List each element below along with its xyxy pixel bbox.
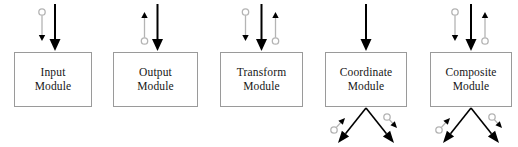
- output-module-label-line2: Module: [137, 80, 174, 94]
- coordinate-module-label-line2: Module: [348, 80, 385, 94]
- output-module-gray-up-arrow-circle-bottom: [141, 12, 147, 44]
- composite-module-box[interactable]: CompositeModule: [430, 52, 512, 107]
- module-group-transform-module: TransformModule: [220, 0, 303, 147]
- output-module-black-down-arrow: [152, 4, 163, 51]
- composite-module-label-line1: Composite: [445, 66, 496, 80]
- input-module-gray-down-arrow-circle-top: [39, 9, 45, 41]
- composite-module-black-down-right-arrow: [471, 108, 499, 143]
- transform-module-label-line2: Module: [243, 80, 280, 94]
- input-module-box[interactable]: InputModule: [14, 52, 92, 107]
- module-group-composite-module: CompositeModule: [430, 0, 512, 147]
- composite-module-label-line2: Module: [453, 80, 490, 94]
- input-module-black-down-arrow: [50, 4, 61, 51]
- composite-module-black-down-left-arrow: [443, 108, 471, 143]
- coordinate-module-label-line1: Coordinate: [340, 66, 393, 80]
- output-module-box[interactable]: OutputModule: [113, 52, 198, 107]
- transform-module-gray-down-arrow-circle-top: [242, 9, 248, 41]
- composite-module-gray-down-arrow-circle-top: [452, 9, 458, 41]
- transform-module-box[interactable]: TransformModule: [220, 52, 303, 107]
- module-flow-diagram: InputModuleOutputModuleTransformModuleCo…: [0, 0, 518, 147]
- composite-module-gray-up-right-arrow-circle: [436, 118, 450, 133]
- coordinate-module-gray-up-right-arrow-circle: [331, 118, 345, 133]
- composite-module-black-down-arrow: [466, 4, 477, 51]
- transform-module-label-line1: Transform: [237, 66, 286, 80]
- module-group-output-module: OutputModule: [113, 0, 198, 147]
- composite-module-gray-up-arrow-circle-bottom: [482, 12, 488, 44]
- module-group-coordinate-module: CoordinateModule: [325, 0, 407, 147]
- composite-module-gray-down-right-arrow-circle: [489, 114, 502, 128]
- input-module-label-line2: Module: [35, 80, 72, 94]
- transform-module-black-down-arrow: [256, 4, 267, 51]
- output-module-label-line1: Output: [139, 66, 172, 80]
- transform-module-gray-up-arrow-circle-bottom: [272, 12, 278, 44]
- input-module-label-line1: Input: [40, 66, 65, 80]
- module-group-input-module: InputModule: [14, 0, 92, 147]
- coordinate-module-box[interactable]: CoordinateModule: [325, 52, 407, 107]
- coordinate-module-black-down-right-arrow: [366, 108, 394, 143]
- coordinate-module-black-down-left-arrow: [338, 108, 366, 143]
- coordinate-module-gray-down-right-arrow-circle: [384, 114, 397, 128]
- coordinate-module-black-down-arrow: [361, 4, 372, 51]
